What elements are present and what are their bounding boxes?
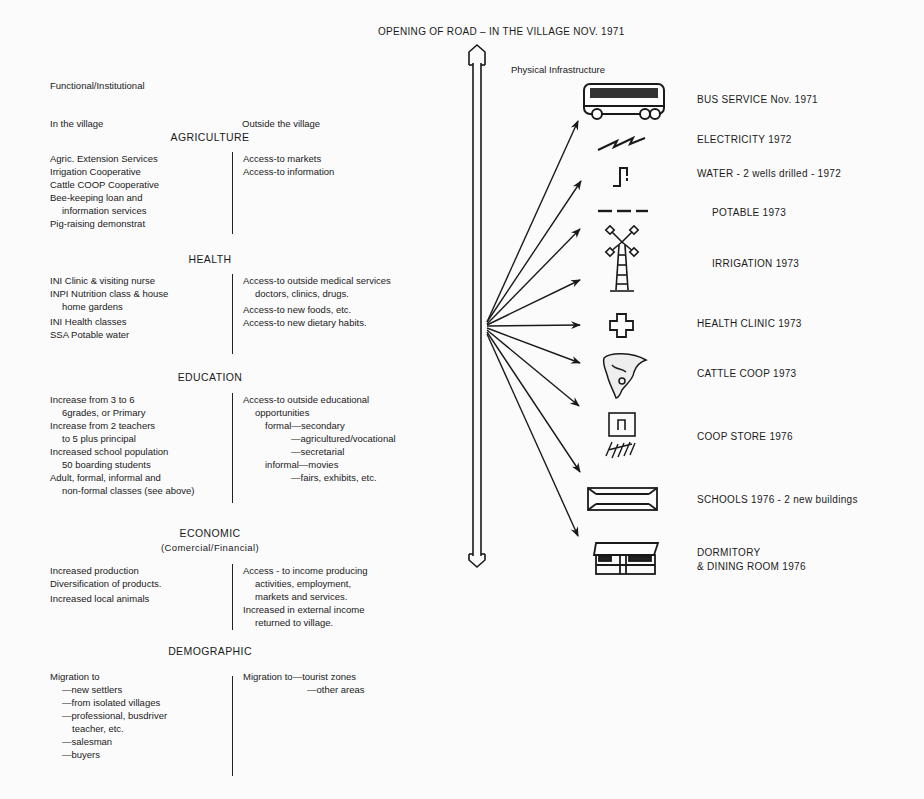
diagram-graphics <box>0 0 924 799</box>
radiating-arrows <box>487 121 581 536</box>
infra-water: WATER - 2 wells drilled - 1972 <box>697 168 841 179</box>
bus-icon <box>584 84 664 119</box>
infra-irrigation: IRRIGATION 1973 <box>712 258 799 269</box>
infra-dormitory: DORMITORY <box>697 547 760 558</box>
road-double-arrow <box>469 45 485 567</box>
physical-infrastructure-heading: Physical Infrastructure <box>511 63 605 76</box>
electricity-icon <box>598 138 645 150</box>
store-icon <box>606 413 635 458</box>
infra-health-clinic: HEALTH CLINIC 1973 <box>697 318 802 329</box>
infra-cattle-coop: CATTLE COOP 1973 <box>697 368 796 379</box>
infra-bus-service: BUS SERVICE Nov. 1971 <box>697 94 818 105</box>
infra-schools: SCHOOLS 1976 - 2 new buildings <box>697 494 858 505</box>
water-tap-icon <box>613 168 627 186</box>
infra-potable: POTABLE 1973 <box>712 207 786 218</box>
infra-dining-room: & DINING ROOM 1976 <box>697 561 806 572</box>
infra-electricity: ELECTRICITY 1972 <box>697 134 792 145</box>
dormitory-icon <box>594 543 658 574</box>
health-cross-icon <box>610 314 633 337</box>
school-building-icon <box>588 488 657 510</box>
windmill-icon <box>606 226 638 291</box>
infra-coop-store: COOP STORE 1976 <box>697 431 793 442</box>
cattle-icon <box>603 354 646 398</box>
